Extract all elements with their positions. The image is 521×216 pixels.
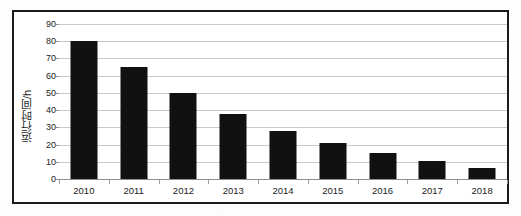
y-axis-tick-label: 40	[30, 106, 56, 115]
y-axis-tick-mark	[56, 127, 59, 128]
x-axis-tick-mark	[308, 180, 309, 184]
y-axis-tick-label: 20	[30, 140, 56, 149]
y-axis-tick-label: 10	[30, 157, 56, 166]
x-axis-tick-label: 2017	[422, 186, 443, 196]
x-axis-tick-label: 2016	[372, 186, 393, 196]
bar[interactable]	[220, 114, 247, 179]
x-axis-tick-label: 2013	[223, 186, 244, 196]
x-axis-tick-mark	[109, 180, 110, 184]
y-axis-tick-labels: 0102030405060708090	[27, 24, 56, 179]
x-axis-tick-label: 2010	[73, 186, 94, 196]
y-axis-tick-label: 90	[30, 20, 56, 29]
chart-frame: 运行时间/h 0102030405060708090 2010201120122…	[12, 10, 509, 204]
x-axis-tick-mark	[358, 180, 359, 184]
bar-slot	[208, 24, 258, 179]
y-axis-tick-label: 80	[30, 37, 56, 46]
x-axis-tick-mark	[208, 180, 209, 184]
bar[interactable]	[419, 161, 446, 179]
x-axis-tick-label: 2018	[472, 186, 493, 196]
x-axis-tick-mark	[507, 180, 508, 184]
gridline	[59, 179, 507, 180]
bar-slot	[258, 24, 308, 179]
bar-slot	[159, 24, 209, 179]
x-axis-tick-label: 2012	[173, 186, 194, 196]
bar[interactable]	[70, 41, 97, 179]
y-axis-tick-mark	[56, 58, 59, 59]
bar[interactable]	[170, 93, 197, 179]
bar-slot	[59, 24, 109, 179]
x-axis-tick-mark	[159, 180, 160, 184]
bar-slot	[109, 24, 159, 179]
bar-slot	[308, 24, 358, 179]
x-axis-tick-mark	[258, 180, 259, 184]
plot-area	[59, 24, 507, 179]
y-axis-tick-label: 70	[30, 54, 56, 63]
y-axis-tick-label: 50	[30, 88, 56, 97]
y-axis-tick-mark	[56, 110, 59, 111]
y-axis-tick-mark	[56, 41, 59, 42]
y-axis-tick-mark	[56, 162, 59, 163]
x-axis-tick-mark	[457, 180, 458, 184]
x-axis-tick-mark	[59, 180, 60, 184]
bar[interactable]	[120, 67, 147, 179]
bar-slot	[407, 24, 457, 179]
bar[interactable]	[469, 168, 496, 179]
y-axis-tick-mark	[56, 145, 59, 146]
y-axis-tick-mark	[56, 24, 59, 25]
bar-slot	[358, 24, 408, 179]
scanned-page-background: 运行时间/h 0102030405060708090 2010201120122…	[0, 0, 521, 216]
y-axis-tick-mark	[56, 93, 59, 94]
x-axis-tick-label: 2011	[123, 186, 143, 196]
y-axis-tick-label: 0	[30, 175, 56, 184]
bar[interactable]	[369, 153, 396, 179]
x-axis-tick-mark	[407, 180, 408, 184]
y-axis-tick-label: 30	[30, 123, 56, 132]
bar[interactable]	[269, 131, 296, 179]
bar-slot	[457, 24, 507, 179]
bar[interactable]	[319, 143, 346, 179]
x-axis-tick-label: 2015	[322, 186, 343, 196]
y-axis-tick-label: 60	[30, 71, 56, 80]
x-axis-tick-label: 2014	[272, 186, 293, 196]
y-axis-tick-mark	[56, 76, 59, 77]
